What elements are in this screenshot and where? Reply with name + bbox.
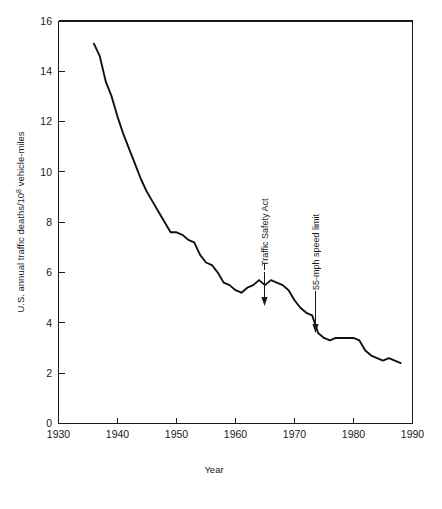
figure-container: 0 2 4 6 8 10 12 14 16 1930 1940 1950 196… [0, 0, 442, 509]
x-tick-label-1930: 1930 [47, 428, 71, 440]
y-tick-labels: 0 2 4 6 8 10 12 14 16 [40, 15, 52, 430]
y-tick-label-2: 2 [46, 367, 52, 379]
x-tick-label-1940: 1940 [106, 428, 130, 440]
x-tick-label-1970: 1970 [283, 428, 307, 440]
y-tick-label-14: 14 [40, 65, 52, 77]
y-axis-title-text: U.S. annual traffic deaths/108 vehicle-m… [15, 131, 27, 312]
x-axis-title: Year [204, 464, 223, 475]
x-tick-marks [59, 418, 413, 424]
y-axis-title: U.S. annual traffic deaths/108 vehicle-m… [15, 131, 27, 312]
y-axis-title-before: U.S. annual traffic deaths/10 [15, 193, 26, 313]
annotation-traffic-safety-act-arrowhead [261, 297, 267, 306]
y-tick-label-16: 16 [40, 15, 52, 27]
annotation-traffic-safety-act-label: Traffic Safety Act [260, 198, 270, 266]
y-tick-label-10: 10 [40, 166, 52, 178]
x-tick-label-1980: 1980 [342, 428, 366, 440]
axes [59, 21, 413, 424]
x-tick-label-1990: 1990 [401, 428, 425, 440]
annotation-55-mph-speed-limit-label: 55-mph speed limit [311, 213, 321, 290]
data-series-line [94, 44, 401, 363]
x-tick-labels: 1930 1940 1950 1960 1970 1980 1990 [47, 428, 425, 440]
annotation-traffic-safety-act: Traffic Safety Act [260, 198, 270, 306]
y-tick-label-4: 4 [46, 317, 52, 329]
y-tick-label-12: 12 [40, 115, 52, 127]
traffic-deaths-line-chart: 0 2 4 6 8 10 12 14 16 1930 1940 1950 196… [0, 0, 442, 509]
x-tick-label-1950: 1950 [165, 428, 189, 440]
x-tick-label-1960: 1960 [224, 428, 248, 440]
y-tick-label-8: 8 [46, 216, 52, 228]
y-tick-marks [59, 21, 65, 424]
y-axis-title-after: vehicle-miles [15, 131, 26, 189]
y-tick-label-6: 6 [46, 266, 52, 278]
